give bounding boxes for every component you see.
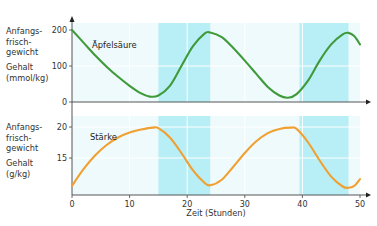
x-tick-label: 40	[297, 200, 307, 209]
dark-period-band	[300, 116, 349, 195]
y-axis-unit-line: Gehalt	[6, 62, 34, 72]
x-axis-arrow-icon	[366, 100, 371, 105]
y-axis-unit-line: (mmol/kg)	[6, 73, 48, 83]
y-axis-label-line: Anfangs-	[6, 122, 42, 132]
y-axis-unit-line: Gehalt	[6, 158, 34, 168]
chart: 0100200Anfangs-frisch-gewichtGehalt(mmol…	[0, 0, 377, 226]
y-tick-label: 0	[62, 98, 67, 107]
y-tick-label: 20	[57, 123, 67, 132]
x-axis-arrow-icon	[366, 193, 371, 198]
x-tick-label: 0	[69, 200, 74, 209]
x-tick-label: 50	[355, 200, 365, 209]
x-tick-label: 10	[125, 200, 135, 209]
y-tick-label: 200	[52, 26, 67, 35]
x-axis-label: Zeit (Stunden)	[186, 208, 245, 218]
y-axis-arrow-icon	[70, 16, 75, 22]
y-axis-label-line: gewicht	[6, 143, 39, 153]
y-axis-unit-line: (g/kg)	[6, 169, 30, 179]
series-label: Äpfelsäure	[92, 40, 137, 50]
y-axis-label-line: frisch-	[6, 37, 31, 47]
series-label: Stärke	[90, 132, 117, 142]
y-axis-label-line: gewicht	[6, 47, 39, 57]
y-tick-label: 100	[52, 62, 67, 71]
y-tick-label: 15	[57, 154, 67, 163]
y-axis-label-line: Anfangs-	[6, 26, 42, 36]
y-axis-label-line: frisch-	[6, 133, 31, 143]
